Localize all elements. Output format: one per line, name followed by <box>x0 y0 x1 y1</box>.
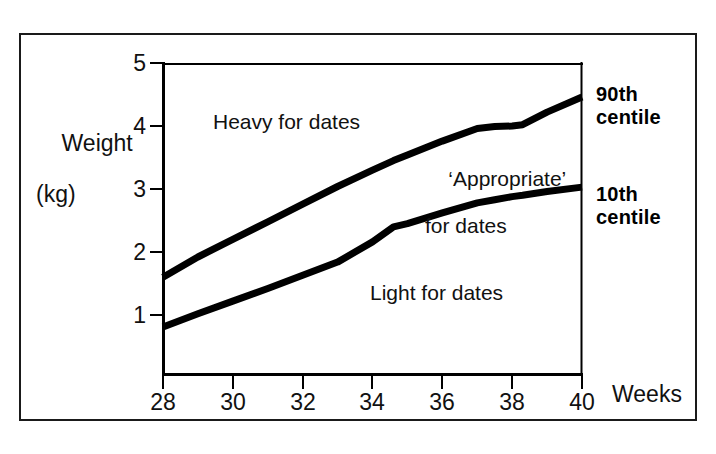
x-axis-ticks <box>163 375 582 389</box>
figure-page: Weight (kg) 5 4 3 2 1 28 30 32 34 36 38 … <box>0 0 716 454</box>
y-tick-label-3: 3 <box>120 176 146 203</box>
x-tick-label-40: 40 <box>559 389 605 416</box>
x-tick-label-34: 34 <box>349 389 395 416</box>
callout-10th-line2: centile <box>596 206 661 229</box>
y-axis-title-line2: (kg) <box>36 182 133 208</box>
y-tick-label-5: 5 <box>120 50 146 77</box>
region-label-appropriate-for-dates: ‘Appropriate’ for dates <box>425 143 566 284</box>
y-tick-label-4: 4 <box>120 113 146 140</box>
callout-90th-line1: 90th <box>596 83 638 105</box>
x-tick-label-36: 36 <box>419 389 465 416</box>
region-label-appropriate-line1: ‘Appropriate’ <box>448 167 566 190</box>
x-tick-label-28: 28 <box>140 389 186 416</box>
region-label-appropriate-line2: for dates <box>425 214 566 238</box>
callout-90th-line2: centile <box>596 106 661 129</box>
x-tick-label-32: 32 <box>280 389 326 416</box>
y-axis-ticks <box>150 63 163 315</box>
callout-10th-centile: 10th centile <box>596 183 661 229</box>
x-tick-label-30: 30 <box>210 389 256 416</box>
region-label-heavy-for-dates: Heavy for dates <box>213 110 360 134</box>
x-axis-unit-label: Weeks <box>612 382 682 408</box>
x-tick-label-38: 38 <box>489 389 535 416</box>
y-tick-label-2: 2 <box>120 239 146 266</box>
y-axis-title: Weight (kg) <box>36 105 133 260</box>
callout-10th-line1: 10th <box>596 183 638 205</box>
region-label-light-for-dates: Light for dates <box>370 281 503 305</box>
y-tick-label-1: 1 <box>120 302 146 329</box>
callout-90th-centile: 90th centile <box>596 83 661 129</box>
